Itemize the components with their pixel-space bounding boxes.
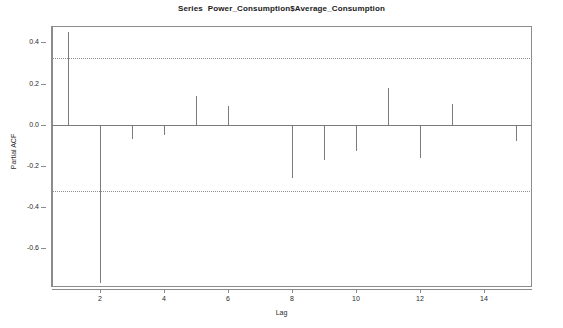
y-axis-tick-label: -0.6 bbox=[0, 244, 39, 251]
x-axis-tick-label: 10 bbox=[346, 295, 366, 302]
x-axis-tick bbox=[228, 289, 229, 293]
x-axis-tick bbox=[356, 289, 357, 293]
pacf-spike bbox=[260, 125, 261, 126]
pacf-spike bbox=[388, 88, 389, 125]
x-axis-tick-label: 6 bbox=[218, 295, 238, 302]
x-axis-tick-label: 4 bbox=[154, 295, 174, 302]
confidence-band-upper bbox=[52, 58, 532, 59]
x-axis-tick bbox=[484, 289, 485, 293]
x-axis-tick bbox=[420, 289, 421, 293]
pacf-spike bbox=[356, 125, 357, 152]
pacf-spike bbox=[132, 125, 133, 139]
x-axis-title: Lag bbox=[0, 309, 563, 316]
x-axis-tick-label: 12 bbox=[410, 295, 430, 302]
y-axis-tick bbox=[41, 207, 46, 208]
x-axis-tick bbox=[292, 289, 293, 293]
y-axis-tick bbox=[41, 125, 46, 126]
plot-area bbox=[52, 26, 532, 287]
confidence-band-lower bbox=[52, 191, 532, 192]
pacf-spike bbox=[100, 125, 101, 283]
pacf-spike bbox=[292, 125, 293, 178]
x-axis-tick-label: 8 bbox=[282, 295, 302, 302]
y-axis-tick bbox=[41, 166, 46, 167]
pacf-spike bbox=[420, 125, 421, 158]
x-axis-tick bbox=[164, 289, 165, 293]
y-axis-title: Partial ACF bbox=[10, 122, 17, 182]
pacf-spike bbox=[484, 125, 485, 126]
pacf-spike bbox=[516, 125, 517, 141]
chart-title: Series Power_Consumption$Average_Consump… bbox=[0, 4, 563, 13]
x-axis-tick bbox=[100, 289, 101, 293]
x-axis-tick-label: 2 bbox=[90, 295, 110, 302]
pacf-spike bbox=[452, 104, 453, 125]
pacf-spike bbox=[68, 32, 69, 124]
y-axis-tick bbox=[41, 248, 46, 249]
pacf-spike bbox=[324, 125, 325, 160]
pacf-spike bbox=[196, 96, 197, 125]
x-axis-tick-label: 14 bbox=[474, 295, 494, 302]
y-axis-tick-label: -0.4 bbox=[0, 203, 39, 210]
y-axis-tick-label: -0.2 bbox=[0, 162, 39, 169]
pacf-spike bbox=[164, 125, 165, 135]
y-axis-tick bbox=[41, 42, 46, 43]
y-axis-tick-label: 0.0 bbox=[0, 121, 39, 128]
pacf-spike bbox=[228, 106, 229, 124]
pacf-plot-figure: Series Power_Consumption$Average_Consump… bbox=[0, 0, 563, 328]
y-axis-tick-label: 0.4 bbox=[0, 38, 39, 45]
y-axis-tick bbox=[41, 84, 46, 85]
y-axis-tick-label: 0.2 bbox=[0, 80, 39, 87]
